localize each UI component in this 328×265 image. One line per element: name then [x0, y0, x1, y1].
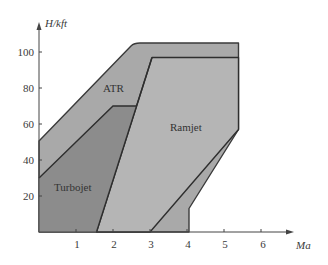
turbojet-label: Turbojet [54, 181, 92, 193]
y-tick-20: 20 [23, 190, 35, 202]
x-tick-3: 3 [148, 238, 154, 250]
flight-envelope-chart: 1 2 3 4 5 6 20 40 60 80 100 H/kft Ma ATR… [0, 0, 328, 265]
x-tick-6: 6 [260, 238, 266, 250]
y-tick-100: 100 [18, 46, 35, 58]
x-tick-1: 1 [74, 238, 80, 250]
y-axis-arrow-icon [37, 22, 42, 30]
y-tick-40: 40 [23, 154, 35, 166]
atr-label: ATR [103, 82, 124, 94]
y-axis-label: H/kft [44, 17, 68, 29]
y-tick-80: 80 [23, 82, 35, 94]
x-axis-label: Ma [295, 239, 311, 251]
x-axis-arrow-icon [286, 230, 294, 235]
x-tick-5: 5 [222, 238, 228, 250]
ramjet-label: Ramjet [170, 121, 202, 133]
x-tick-2: 2 [111, 238, 117, 250]
x-tick-labels: 1 2 3 4 5 6 [74, 238, 266, 250]
y-tick-60: 60 [23, 118, 35, 130]
x-tick-4: 4 [185, 238, 191, 250]
y-tick-labels: 20 40 60 80 100 [18, 46, 35, 202]
